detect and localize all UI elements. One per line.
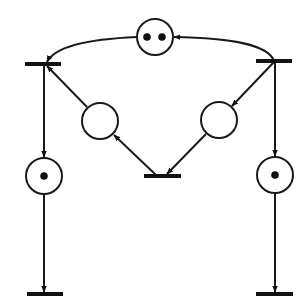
arc-t-top-right-to-p-top bbox=[174, 37, 274, 61]
arc-t-top-right-to-p-mid-right bbox=[232, 62, 274, 106]
petri-net-diagram bbox=[0, 0, 305, 308]
arc-p-top-to-t-top-left bbox=[47, 37, 137, 62]
token-icon bbox=[40, 172, 48, 180]
place-top bbox=[137, 19, 173, 55]
token-icon bbox=[143, 33, 151, 41]
token-icon bbox=[158, 33, 166, 41]
arc-t-mid-bottom-to-p-mid-left bbox=[114, 135, 156, 175]
place-mid-right bbox=[201, 102, 237, 138]
token-icon bbox=[271, 171, 279, 179]
arc-p-mid-right-to-t-mid-bottom bbox=[167, 134, 206, 174]
arc-p-mid-left-to-t-top-left bbox=[47, 66, 87, 107]
place-mid-left bbox=[82, 103, 118, 139]
